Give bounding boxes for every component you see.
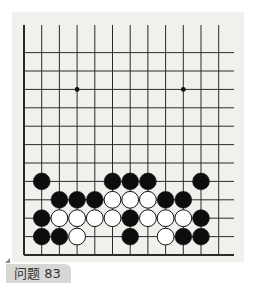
- black-stone: [157, 191, 174, 208]
- label-corner-mark: [5, 258, 10, 263]
- black-stone: [175, 191, 192, 208]
- white-stone: [104, 210, 121, 227]
- white-stone: [69, 210, 86, 227]
- star-point: [75, 87, 80, 92]
- black-stone: [51, 228, 68, 245]
- white-stone: [157, 228, 174, 245]
- black-stone: [122, 228, 139, 245]
- problem-label: 问题 83: [6, 264, 71, 283]
- black-stone: [69, 191, 86, 208]
- black-stone: [33, 228, 50, 245]
- black-stone: [33, 173, 50, 190]
- black-stone: [104, 173, 121, 190]
- go-board-panel: [12, 12, 244, 262]
- black-stone: [51, 191, 68, 208]
- white-stone: [69, 228, 86, 245]
- go-board: [12, 12, 244, 262]
- white-stone: [140, 210, 157, 227]
- black-stone: [193, 210, 210, 227]
- black-stone: [86, 191, 103, 208]
- black-stone: [122, 210, 139, 227]
- black-stone: [193, 173, 210, 190]
- white-stone: [175, 210, 192, 227]
- white-stone: [122, 191, 139, 208]
- white-stone: [140, 191, 157, 208]
- white-stone: [86, 210, 103, 227]
- black-stone: [33, 210, 50, 227]
- black-stone: [140, 173, 157, 190]
- white-stone: [157, 210, 174, 227]
- black-stone: [122, 173, 139, 190]
- white-stone: [104, 191, 121, 208]
- black-stone: [175, 228, 192, 245]
- white-stone: [51, 210, 68, 227]
- star-point: [181, 87, 186, 92]
- black-stone: [193, 228, 210, 245]
